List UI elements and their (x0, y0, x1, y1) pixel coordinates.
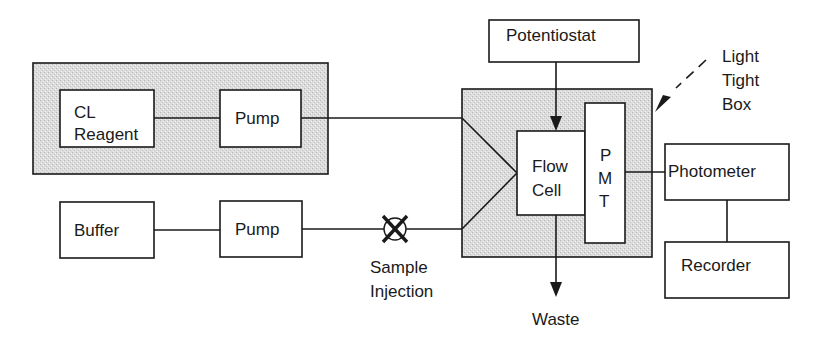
pmt-letter-m: M (598, 169, 612, 188)
light-tight-box-label-line1: Light (722, 47, 759, 66)
diagram-canvas: CL Reagent Pump Buffer Pump Sample Injec… (0, 0, 818, 340)
flow-cell-label-line2: Cell (532, 181, 561, 200)
light-tight-box-label-line3: Box (722, 95, 752, 114)
pmt-letter-t: T (599, 192, 609, 211)
waste-label: Waste (532, 310, 580, 329)
pump-top-label: Pump (235, 109, 279, 128)
pump-bottom-label: Pump (235, 220, 279, 239)
flow-cell-label-line1: Flow (532, 157, 569, 176)
recorder-label: Recorder (681, 256, 751, 275)
buffer-label: Buffer (74, 221, 119, 240)
cl-reagent-label-line2: Reagent (74, 125, 139, 144)
injection-valve-icon (383, 216, 407, 242)
light-tight-box-label-line2: Tight (722, 71, 759, 90)
pmt-letter-p: P (600, 146, 611, 165)
sample-injection-label-line1: Sample (370, 258, 428, 277)
photometer-label: Photometer (668, 162, 756, 181)
arrowhead-pointer-icon (655, 95, 671, 112)
sample-injection-label-line2: Injection (370, 282, 433, 301)
arrowhead-down-icon (550, 282, 562, 297)
cl-reagent-label-line1: CL (74, 103, 96, 122)
potentiostat-label: Potentiostat (506, 26, 596, 45)
